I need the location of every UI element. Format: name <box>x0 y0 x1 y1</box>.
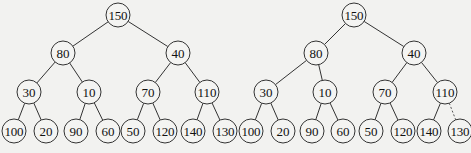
tree-node: 40 <box>166 41 190 65</box>
node-label: 50 <box>127 124 140 139</box>
node-label: 80 <box>57 46 70 61</box>
node-label: 130 <box>216 124 235 139</box>
tree-node: 20 <box>34 119 58 143</box>
node-label: 100 <box>5 124 24 139</box>
tree-node: 100 <box>239 119 263 143</box>
node-label: 140 <box>184 124 203 139</box>
tree-node: 140 <box>417 119 441 143</box>
node-label: 120 <box>394 124 413 139</box>
tree-node: 10 <box>77 80 101 104</box>
node-label: 20 <box>40 124 53 139</box>
tree-edge <box>73 22 108 46</box>
node-label: 10 <box>83 85 96 100</box>
tree-edge <box>137 103 143 120</box>
node-label: 130 <box>451 124 470 139</box>
node-label: 60 <box>337 124 350 139</box>
tree-edge <box>128 21 168 46</box>
node-label: 70 <box>142 85 155 100</box>
tree-node: 130 <box>213 119 237 143</box>
tree-node: 30 <box>17 80 41 104</box>
tree-node: 90 <box>300 119 324 143</box>
tree-right: 150804030107011010020906050120140130 <box>239 3 471 143</box>
node-label: 60 <box>102 124 115 139</box>
tree-node: 150 <box>106 3 130 27</box>
tree-left: 150804030107011010020906050120140130 <box>2 3 237 143</box>
node-label: 50 <box>365 124 378 139</box>
tree-edge <box>197 103 203 119</box>
tree-node: 30 <box>254 80 278 104</box>
node-label: 10 <box>319 85 332 100</box>
tree-node: 110 <box>195 80 219 104</box>
node-label: 100 <box>242 124 261 139</box>
tree-edge <box>94 103 102 120</box>
node-label: 110 <box>436 85 455 100</box>
tree-node: 120 <box>391 119 415 143</box>
tree-edge <box>70 63 83 82</box>
tree-node: 130 <box>448 119 471 143</box>
tree-node: 120 <box>153 119 177 143</box>
tree-edge <box>80 103 85 119</box>
node-label: 110 <box>198 85 217 100</box>
tree-edge <box>316 103 321 119</box>
tree-node: 80 <box>304 41 328 65</box>
node-label: 40 <box>408 46 421 61</box>
node-label: 70 <box>379 85 392 100</box>
tree-edge <box>37 62 55 83</box>
node-label: 140 <box>420 124 439 139</box>
tree-node: 60 <box>331 119 355 143</box>
tree-edge <box>434 103 441 120</box>
tree-node: 80 <box>51 41 75 65</box>
tree-node: 40 <box>402 41 426 65</box>
node-label: 150 <box>345 8 364 23</box>
tree-edge <box>319 65 323 81</box>
tree-edge <box>330 103 338 120</box>
tree-node: 140 <box>181 119 205 143</box>
tree-edge <box>392 63 407 83</box>
node-label: 30 <box>260 85 273 100</box>
tree-node: 110 <box>433 80 457 104</box>
tree-node: 60 <box>96 119 120 143</box>
node-label: 120 <box>156 124 175 139</box>
node-label: 80 <box>310 46 323 61</box>
tree-node: 100 <box>2 119 26 143</box>
tree-edge <box>18 103 24 120</box>
tree-node: 150 <box>342 3 366 27</box>
node-label: 30 <box>23 85 36 100</box>
tree-edge <box>375 103 381 119</box>
tree-edge <box>275 60 306 84</box>
tree-node: 90 <box>64 119 88 143</box>
tree-edge <box>271 103 278 120</box>
binary-heap-diagram: 1508040301070110100209060501201401301508… <box>0 0 471 153</box>
tree-node: 10 <box>313 80 337 104</box>
tree-edge <box>153 103 160 120</box>
tree-node: 70 <box>136 80 160 104</box>
node-label: 150 <box>109 8 128 23</box>
dashed-edge <box>449 103 455 120</box>
tree-node: 70 <box>373 80 397 104</box>
node-label: 40 <box>172 46 185 61</box>
tree-edge <box>185 63 200 83</box>
tree-node: 50 <box>121 119 145 143</box>
node-label: 20 <box>277 124 290 139</box>
tree-edge <box>324 23 345 44</box>
tree-edge <box>364 21 404 46</box>
tree-edge <box>255 103 261 120</box>
tree-diagram-svg: 1508040301070110100209060501201401301508… <box>0 0 471 153</box>
node-label: 90 <box>70 124 83 139</box>
tree-edge <box>155 63 170 83</box>
tree-node: 50 <box>359 119 383 143</box>
tree-node: 20 <box>271 119 295 143</box>
tree-edge <box>390 103 398 120</box>
tree-edge <box>212 103 220 120</box>
node-label: 90 <box>306 124 319 139</box>
tree-edge <box>34 103 41 120</box>
tree-edge <box>421 62 437 82</box>
